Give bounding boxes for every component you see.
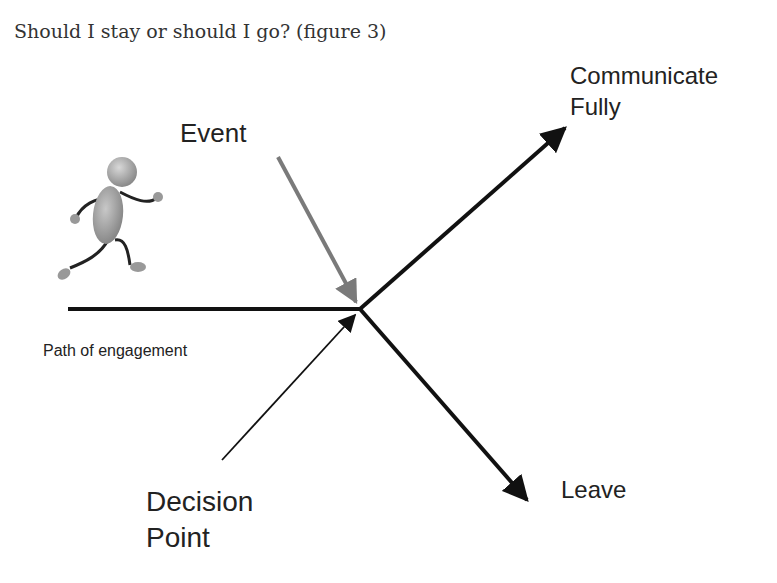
communicate-arrow xyxy=(360,128,565,309)
running-stick-figure-icon xyxy=(55,157,163,282)
path-of-engagement-label: Path of engagement xyxy=(43,342,187,360)
decision-label-line1: Decision xyxy=(146,486,253,518)
decision-label-line2: Point xyxy=(146,522,210,554)
leave-label: Leave xyxy=(561,476,626,504)
event-arrow xyxy=(278,157,356,302)
leave-arrow xyxy=(360,309,527,500)
communicate-label-line1: Communicate xyxy=(570,62,718,90)
event-label: Event xyxy=(180,118,247,149)
communicate-label-line2: Fully xyxy=(570,93,621,121)
decision-point-arrow xyxy=(222,315,355,460)
